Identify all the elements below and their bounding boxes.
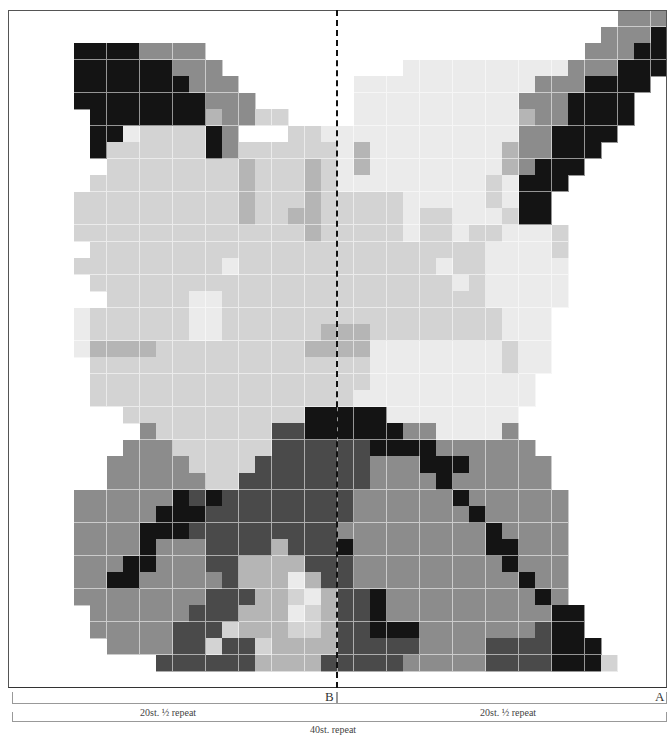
bracket-right-half [337, 692, 667, 704]
bracket-left-half [12, 692, 337, 704]
center-divider-line [336, 10, 338, 688]
full-repeat-label: 40st. repeat [310, 724, 356, 735]
bracket-full-repeat [12, 712, 667, 722]
